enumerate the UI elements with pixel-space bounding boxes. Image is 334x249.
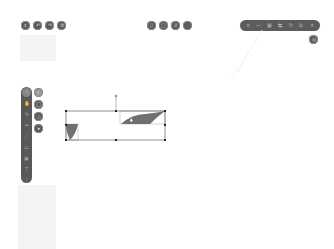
wave-shape-right[interactable] bbox=[121, 111, 165, 124]
rotate-handle[interactable] bbox=[115, 95, 118, 98]
drawing-canvas[interactable] bbox=[0, 0, 334, 249]
wedge-shape-left[interactable] bbox=[66, 124, 78, 140]
